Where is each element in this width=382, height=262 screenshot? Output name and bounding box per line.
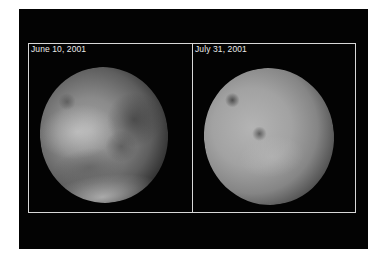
right-date-label: July 31, 2001 [195, 44, 247, 54]
image-panel: June 10, 2001 July 31, 2001 [19, 9, 368, 249]
left-date-label: June 10, 2001 [31, 44, 86, 54]
panel-divider [192, 43, 193, 213]
